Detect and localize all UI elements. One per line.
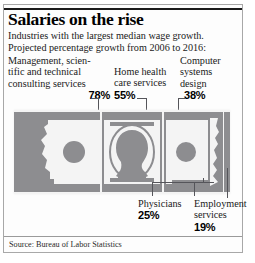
callout-computer-line-1: Computer [180,55,240,66]
callout-management-line-1: Management, scien- [8,55,112,66]
callout-home-health: Home health care services 55% [114,66,176,101]
callout-home-health-line-1: Home health [114,66,176,77]
value-label-management: 78% [89,89,110,101]
value-label-employment: 19% [194,221,215,233]
value-label-home-health: 55% [114,89,135,101]
leader-line-computer-horizontal [178,98,186,99]
leader-line-employment-stub [227,168,228,198]
callout-computer-line-2: systems [180,66,240,77]
leader-line-employment-vertical [194,182,195,196]
callout-home-health-line-2: care services [114,77,176,88]
callout-computer-systems: Computer systems design 38% [180,55,240,102]
callout-employment-services: Employment services 19% [194,198,244,233]
callout-management-line-2: tific and technical [8,66,112,77]
subtitle: Industries with the largest median wage … [8,30,240,53]
callout-computer-line-3: design [180,78,240,89]
callout-employment-line-1: Employment [194,198,244,209]
callout-physicians-line-1: Physicians [138,198,192,209]
leader-line-employment-horizontal [194,182,214,183]
callout-employment-line-2: services [194,209,244,220]
value-label-physicians: 25% [138,209,159,221]
subtitle-line-1: Industries with the largest median wage … [8,30,240,42]
callout-physicians: Physicians 25% [138,198,192,222]
value-label-computer: 38% [184,89,205,101]
page-title: Salaries on the rise [8,10,236,29]
callout-management: Management, scien- tific and technical c… [8,55,112,102]
callout-management-line-3: consulting services [8,78,112,89]
source-divider [4,236,242,237]
source-credit: Source: Bureau of Labor Statistics [9,240,122,250]
infographic-panel: Salaries on the rise Industries with the… [0,0,255,263]
subtitle-line-2: Projected percentage growth from 2006 to… [8,42,240,54]
leader-line-physicians-vertical [152,182,153,196]
